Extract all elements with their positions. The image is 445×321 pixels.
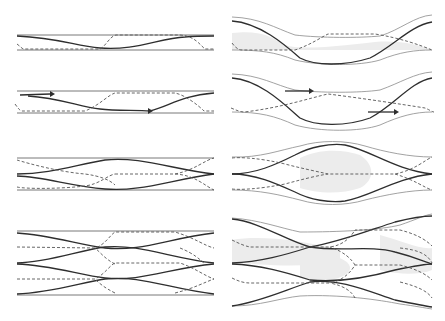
panel-L1 [17,35,214,50]
panel-R2 [231,72,434,130]
panel-R1 [232,15,432,65]
panel-L4 [17,231,214,295]
channel-flow-figure [0,0,445,321]
panel-L3 [17,158,214,190]
panel-R4 [232,214,432,309]
panel-R3 [232,142,432,205]
panel-L2 [15,91,214,114]
